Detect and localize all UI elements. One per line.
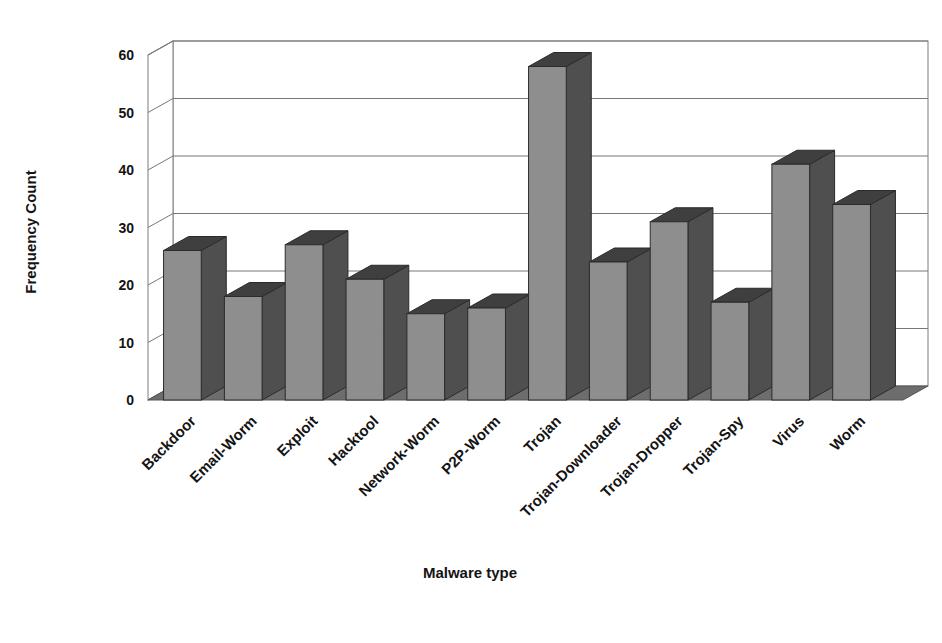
bar-front-face <box>650 222 688 400</box>
bar-front-face <box>468 308 506 400</box>
bar-front-face <box>711 302 749 400</box>
y-tick-label: 30 <box>118 220 134 236</box>
bar-side-face <box>323 231 348 400</box>
bar-side-face <box>627 248 652 400</box>
bar-side-face <box>505 294 530 400</box>
bar-column <box>407 300 470 400</box>
bar-column <box>285 231 348 400</box>
bar-column <box>589 248 652 400</box>
x-axis-title: Malware type <box>423 564 517 581</box>
y-tick-label: 40 <box>118 162 134 178</box>
bar-side-face <box>445 300 470 400</box>
y-tick-label: 20 <box>118 277 134 293</box>
bar-front-face <box>772 164 810 400</box>
bar-front-face <box>285 245 323 400</box>
y-tick-label: 10 <box>118 335 134 351</box>
bar-column <box>772 150 835 400</box>
y-tick-label: 50 <box>118 105 134 121</box>
bar-side-face <box>688 208 713 400</box>
bar-column <box>650 208 713 400</box>
bar-column <box>468 294 531 400</box>
y-axis-title: Frequency Count <box>22 170 39 293</box>
bar-column <box>833 191 896 401</box>
bar-column <box>711 288 774 400</box>
bar-side-face <box>201 237 226 401</box>
y-tick-label: 0 <box>126 392 134 408</box>
bar-front-face <box>529 67 567 401</box>
bar-front-face <box>224 297 262 401</box>
bar-chart-figure: 0102030405060 BackdoorEmail-WormExploitH… <box>0 0 942 643</box>
bar-side-face <box>749 288 774 400</box>
bar-column <box>529 53 592 401</box>
bar-column <box>346 265 409 400</box>
bar-side-face <box>810 150 835 400</box>
bar-side-face <box>262 283 287 401</box>
chart-canvas: 0102030405060 BackdoorEmail-WormExploitH… <box>0 0 942 643</box>
y-tick-label: 60 <box>118 47 134 63</box>
bar-front-face <box>407 314 445 400</box>
bar-front-face <box>346 279 384 400</box>
bar-side-face <box>870 191 895 401</box>
bar-column <box>164 237 227 401</box>
bar-front-face <box>833 205 871 401</box>
bar-front-face <box>164 251 202 401</box>
bar-side-face <box>566 53 591 401</box>
bar-column <box>224 283 287 401</box>
bar-side-face <box>384 265 409 400</box>
bar-front-face <box>589 262 627 400</box>
